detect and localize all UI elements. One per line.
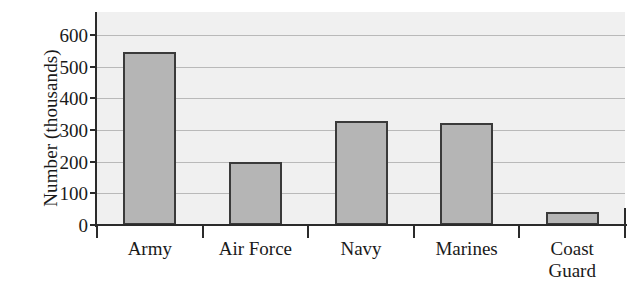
x-axis-tick-mark [624,225,626,238]
x-axis-tick-mark [202,225,204,238]
x-axis-tick-label: Air Force [203,238,309,260]
bar-chart: Number (thousands) 0100200300400500600 A… [0,0,637,289]
x-axis-tick-label: Coast Guard [519,238,625,282]
x-axis-tick-mark [518,225,520,238]
x-axis-tick-mark [413,225,415,238]
x-axis-tick-mark [307,225,309,238]
x-axis-tick-mark [96,225,98,238]
x-axis-tick-label: Marines [414,238,520,260]
x-axis-tick-label: Army [97,238,203,260]
x-axis-tick-label: Navy [308,238,414,260]
x-axis-ticks-and-labels: ArmyAir ForceNavyMarinesCoast Guard [0,0,637,289]
